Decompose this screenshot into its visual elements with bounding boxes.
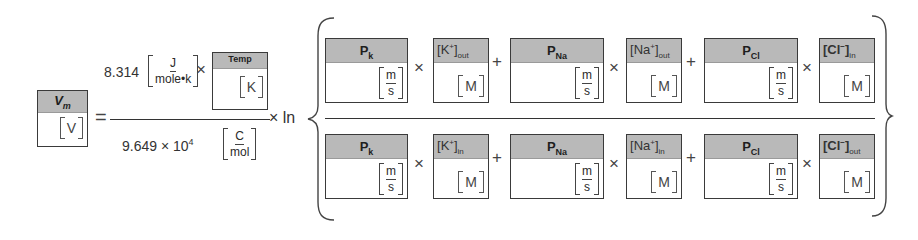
na-out-unit: M	[651, 75, 677, 97]
times-sign: ×	[609, 58, 619, 78]
faraday-unit: Cmol	[223, 128, 256, 160]
times-sign: ×	[802, 58, 812, 78]
k-in-unit: M	[458, 171, 484, 193]
times-sign: ×	[196, 60, 206, 80]
k-in-label: [K+]in	[437, 138, 464, 156]
k-out-box[interactable]: [K+]out M	[433, 38, 489, 103]
cl-in-label: [Cl−]in	[823, 42, 856, 60]
gas-constant-unit: Jmole•k	[148, 55, 198, 87]
times-ln: × ln	[269, 109, 295, 127]
gas-constant: 8.314	[104, 64, 139, 80]
vm-header: Vm	[38, 91, 87, 113]
prefactor-fraction-bar	[110, 119, 270, 120]
pcl-denominator-box[interactable]: PCl ms	[704, 134, 798, 199]
na-out-header: [Na+]out	[627, 39, 681, 63]
vm-label: Vm	[38, 93, 87, 111]
k-out-header: [K+]out	[434, 39, 488, 63]
pna-denominator-box[interactable]: PNa ms	[510, 134, 604, 199]
vm-input-box[interactable]: Vm V	[37, 90, 88, 147]
pk-header: Pk	[326, 135, 407, 159]
k-in-box[interactable]: [K+]in M	[433, 134, 489, 199]
pk-header: Pk	[326, 39, 407, 63]
cl-in-box[interactable]: [Cl−]in M	[819, 38, 875, 103]
k-out-label: [K+]out	[437, 42, 469, 60]
pna-label: PNa	[511, 43, 603, 61]
pna-header: PNa	[511, 135, 603, 159]
pk-unit: ms	[379, 67, 403, 99]
k-in-header: [K+]in	[434, 135, 488, 159]
pna-numerator-box[interactable]: PNa ms	[510, 38, 604, 103]
log-fraction-bar	[325, 118, 875, 119]
temp-input-box[interactable]: Temp K	[212, 52, 268, 110]
vm-unit: V	[60, 117, 83, 139]
pna-unit: ms	[575, 67, 599, 99]
times-sign: ×	[414, 58, 424, 78]
na-in-unit: M	[651, 171, 677, 193]
pk-numerator-box[interactable]: Pk ms	[325, 38, 408, 103]
cl-out-box[interactable]: [Cl−]out M	[819, 134, 875, 199]
pcl-header: PCl	[705, 135, 797, 159]
cl-in-header: [Cl−]in	[820, 39, 874, 63]
pna-header: PNa	[511, 39, 603, 63]
times-sign: ×	[414, 154, 424, 174]
na-in-header: [Na+]in	[627, 135, 681, 159]
pcl-unit: ms	[769, 67, 793, 99]
pcl-label: PCl	[705, 139, 797, 157]
faraday-constant: 9.649 × 104	[122, 137, 194, 154]
pna-unit: ms	[575, 163, 599, 195]
temp-unit: K	[240, 76, 263, 98]
times-sign: ×	[609, 154, 619, 174]
temp-label: Temp	[213, 54, 267, 64]
cl-out-header: [Cl−]out	[820, 135, 874, 159]
pcl-numerator-box[interactable]: PCl ms	[704, 38, 798, 103]
pk-unit: ms	[379, 163, 403, 195]
equals-sign: =	[95, 106, 107, 129]
plus-sign: +	[492, 52, 502, 72]
na-in-box[interactable]: [Na+]in M	[626, 134, 682, 199]
times-sign: ×	[802, 154, 812, 174]
cl-out-unit: M	[844, 171, 870, 193]
pcl-unit: ms	[769, 163, 793, 195]
plus-sign: +	[492, 148, 502, 168]
pna-label: PNa	[511, 139, 603, 157]
pcl-header: PCl	[705, 39, 797, 63]
pk-label: Pk	[326, 43, 407, 61]
pk-label: Pk	[326, 139, 407, 157]
plus-sign: +	[686, 148, 696, 168]
na-out-label: [Na+]out	[630, 42, 670, 60]
k-out-unit: M	[458, 75, 484, 97]
pcl-label: PCl	[705, 43, 797, 61]
plus-sign: +	[686, 52, 696, 72]
temp-header: Temp	[213, 53, 267, 69]
na-in-label: [Na+]in	[630, 138, 665, 156]
pk-denominator-box[interactable]: Pk ms	[325, 134, 408, 199]
na-out-box[interactable]: [Na+]out M	[626, 38, 682, 103]
cl-in-unit: M	[844, 75, 870, 97]
cl-out-label: [Cl−]out	[823, 138, 860, 156]
